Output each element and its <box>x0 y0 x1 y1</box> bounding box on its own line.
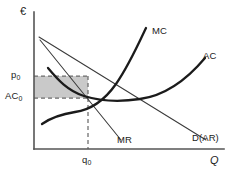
price-tick-label: p0 <box>11 70 20 80</box>
x-axis-variable-label: Q <box>210 155 219 166</box>
chart-canvas <box>0 0 232 178</box>
quantity-tick-sub: 0 <box>87 159 91 166</box>
economics-diagram: € Q p0 AC0 q0 MC AC MR D(AR) <box>0 0 232 178</box>
avg-cost-tick-label: AC0 <box>5 91 22 101</box>
ac-label: AC <box>203 51 216 61</box>
y-axis-unit-label: € <box>20 6 26 17</box>
avg-cost-tick-sub: 0 <box>18 95 22 102</box>
mr-label: MR <box>117 135 132 145</box>
price-tick-sub: 0 <box>16 74 20 81</box>
mc-label: MC <box>152 26 167 36</box>
demand-label: D(AR) <box>192 133 219 143</box>
avg-cost-tick-base: AC <box>5 90 18 101</box>
quantity-tick-label: q0 <box>82 155 91 165</box>
